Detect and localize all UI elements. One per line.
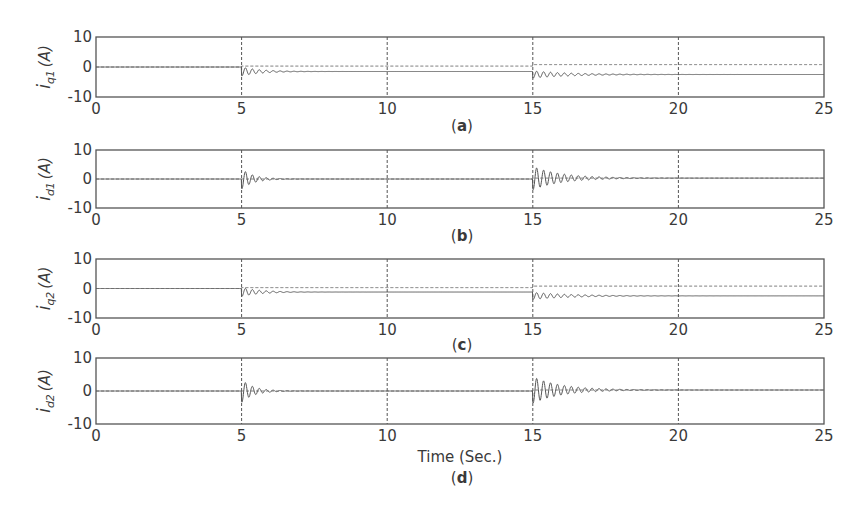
figure: 100-100510152025iq1(A)(a)100-10051015202… — [0, 0, 868, 514]
subplot-d: 100-100510152025id2(A)(d)Time (Sec.) — [34, 349, 834, 487]
y-axis-label: id1(A) — [34, 157, 57, 201]
x-tick-label: 15 — [523, 211, 542, 229]
x-tick-label: 10 — [378, 100, 397, 118]
y-tick-label: -10 — [68, 309, 93, 327]
x-axis-label: Time (Sec.) — [417, 448, 503, 466]
panel-caption: (b) — [451, 227, 473, 245]
y-tick-label: 0 — [82, 280, 92, 298]
x-tick-label: 15 — [523, 427, 542, 445]
panel-caption: (a) — [451, 117, 473, 135]
x-tick-label: 25 — [814, 321, 833, 339]
series-actual — [96, 378, 824, 403]
subplot-c: 100-100510152025iq2(A)(c) — [34, 250, 834, 354]
x-tick-label: 10 — [378, 427, 397, 445]
x-tick-label: 5 — [237, 321, 247, 339]
y-tick-label: 10 — [73, 141, 92, 159]
x-tick-label: 20 — [669, 211, 688, 229]
x-tick-label: 0 — [91, 321, 101, 339]
y-axis-label: iq1(A) — [34, 45, 57, 89]
x-tick-label: 20 — [669, 427, 688, 445]
x-tick-label: 25 — [814, 211, 833, 229]
y-tick-label: 10 — [73, 349, 92, 367]
y-tick-label: -10 — [68, 415, 93, 433]
x-tick-label: 20 — [669, 100, 688, 118]
series-actual — [96, 67, 824, 78]
y-tick-label: -10 — [68, 199, 93, 217]
series-actual — [96, 288, 824, 299]
y-tick-label: 10 — [73, 28, 92, 46]
x-tick-label: 15 — [523, 100, 542, 118]
panel-caption: (d) — [451, 469, 473, 487]
subplot-a: 100-100510152025iq1(A)(a) — [34, 28, 834, 135]
y-tick-label: -10 — [68, 88, 93, 106]
x-tick-label: 0 — [91, 211, 101, 229]
x-tick-label: 5 — [237, 427, 247, 445]
x-tick-label: 0 — [91, 100, 101, 118]
x-tick-label: 10 — [378, 211, 397, 229]
x-tick-label: 20 — [669, 321, 688, 339]
x-tick-label: 5 — [237, 100, 247, 118]
x-tick-label: 0 — [91, 427, 101, 445]
subplot-b: 100-100510152025id1(A)(b) — [34, 141, 834, 245]
y-tick-label: 0 — [82, 170, 92, 188]
y-tick-label: 10 — [73, 250, 92, 268]
x-tick-label: 15 — [523, 321, 542, 339]
x-tick-label: 10 — [378, 321, 397, 339]
y-tick-label: 0 — [82, 382, 92, 400]
y-axis-label: id2(A) — [34, 369, 57, 413]
x-tick-label: 25 — [814, 100, 833, 118]
y-axis-label: iq2(A) — [34, 267, 57, 311]
x-tick-label: 5 — [237, 211, 247, 229]
panel-caption: (c) — [452, 336, 473, 354]
y-tick-label: 0 — [82, 58, 92, 76]
x-tick-label: 25 — [814, 427, 833, 445]
series-actual — [96, 168, 824, 190]
